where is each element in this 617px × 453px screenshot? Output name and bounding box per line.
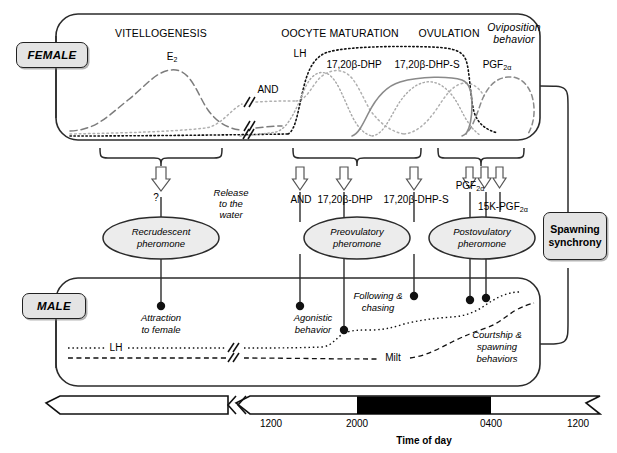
axis-tick-0400: 0400 bbox=[480, 418, 502, 429]
axis-title-time-of-day: Time of day bbox=[396, 435, 451, 446]
axis-tick-1200-last: 1200 bbox=[567, 418, 589, 429]
stage-label-vitellogenesis: VITELLOGENESIS bbox=[115, 28, 207, 40]
male-trace-label-milt: Milt bbox=[382, 352, 404, 363]
male-tag: MALE bbox=[22, 293, 86, 319]
bracket-maturation bbox=[293, 148, 421, 166]
curve-label-dhp: 17,20β-DHP bbox=[326, 59, 381, 70]
signal-label-pgf2a: PGF2α bbox=[456, 180, 485, 193]
pheromone-label-postovulatory-line2: pheromone bbox=[458, 239, 506, 250]
spawning-synchrony-line1: Spawning bbox=[550, 223, 600, 236]
male-behavior-agonistic-line2: behavior bbox=[295, 325, 331, 336]
unknown-signal-question-mark: ? bbox=[153, 192, 159, 203]
male-behavior-agonistic-line1: Agonistic bbox=[294, 313, 333, 324]
diagram-root: FEMALE MALE Spawning synchrony VITELLOGE… bbox=[0, 0, 617, 453]
axis-tick-1200-first: 1200 bbox=[260, 418, 282, 429]
signal-label-pgf2a-sub: 2α bbox=[476, 184, 484, 193]
stage-label-oocyte-maturation: OOCYTE MATURATION bbox=[281, 28, 399, 40]
signal-label-15k-pgf2a: 15K-PGF2α bbox=[478, 201, 528, 214]
pheromone-label-recrudescent-line2: pheromone bbox=[137, 239, 185, 250]
axis-tick-2000: 2000 bbox=[346, 418, 368, 429]
male-trace-label-lh: LH bbox=[107, 342, 126, 353]
male-behavior-courtship-line2: spawning bbox=[477, 342, 517, 353]
curve-label-and: AND bbox=[257, 84, 278, 95]
male-behavior-courtship-line3: behaviors bbox=[476, 354, 517, 365]
curve-label-e2-sub: 2 bbox=[173, 56, 177, 63]
curve-label-lh: LH bbox=[294, 48, 307, 59]
female-tag-label: FEMALE bbox=[27, 49, 76, 61]
release-arrows bbox=[152, 167, 506, 191]
male-behavior-attraction-line1: Attraction bbox=[141, 313, 181, 324]
diagram-vector-layer bbox=[0, 0, 617, 453]
male-behavior-attraction-line2: to female bbox=[141, 325, 180, 336]
stage-label-oviposition-line2: behavior bbox=[493, 34, 534, 46]
bracket-vitellogenesis bbox=[100, 148, 222, 166]
stage-label-ovulation: OVULATION bbox=[418, 28, 479, 40]
pheromone-label-preovulatory-line1: Preovulatory bbox=[330, 227, 383, 238]
signal-label-dhp-s: 17,20β-DHP-S bbox=[383, 194, 448, 205]
male-behavior-following-line1: Following & bbox=[353, 291, 402, 302]
male-behavior-courtship-line1: Courtship & bbox=[472, 330, 522, 341]
pheromone-label-preovulatory-line2: pheromone bbox=[333, 239, 381, 250]
curve-label-dhp-s: 17,20β-DHP-S bbox=[394, 59, 459, 70]
female-tag: FEMALE bbox=[16, 42, 88, 68]
male-behavior-following-line2: chasing bbox=[362, 303, 395, 314]
spawning-synchrony-line2: synchrony bbox=[548, 236, 601, 249]
pheromone-label-postovulatory-line1: Postovulatory bbox=[453, 227, 511, 238]
curve-label-e2: E2 bbox=[167, 51, 178, 64]
night-block bbox=[357, 397, 491, 415]
time-axis bbox=[46, 396, 600, 414]
spawning-synchrony-box: Spawning synchrony bbox=[543, 212, 607, 260]
release-to-water-line3: water bbox=[219, 210, 242, 221]
bracket-ovulation bbox=[438, 148, 524, 166]
stage-label-oviposition-line1: Oviposition bbox=[487, 22, 541, 34]
signal-label-15k-pgf2a-sub: 2α bbox=[520, 205, 528, 214]
signal-label-dhp: 17,20β-DHP bbox=[317, 194, 372, 205]
curve-label-pgf2a: PGF2α bbox=[483, 59, 512, 72]
signal-label-and: AND bbox=[290, 194, 311, 205]
pheromone-label-recrudescent-line1: Recrudescent bbox=[132, 227, 191, 238]
male-tag-label: MALE bbox=[37, 300, 71, 312]
curve-label-pgf2a-sub: 2α bbox=[503, 63, 511, 72]
